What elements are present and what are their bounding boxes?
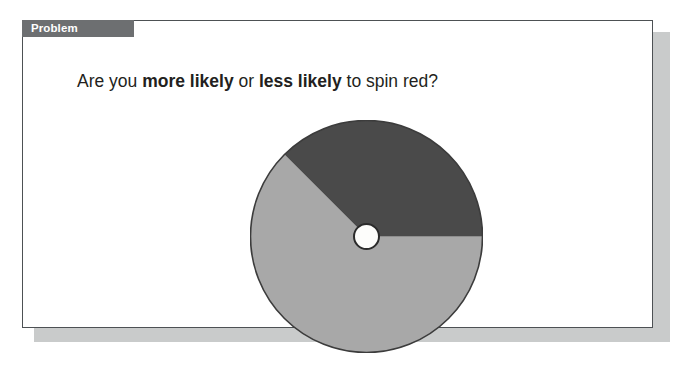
problem-banner: Problem xyxy=(22,20,134,37)
question-text-part-5: to spin red? xyxy=(342,71,438,91)
question-text-part-3: or xyxy=(234,71,259,91)
question-emphasis-less-likely: less likely xyxy=(259,71,342,91)
question-emphasis-more-likely: more likely xyxy=(142,71,233,91)
problem-question: Are you more likely or less likely to sp… xyxy=(77,69,438,93)
page-root: Are you more likely or less likely to sp… xyxy=(0,0,689,380)
spinner-svg xyxy=(250,120,483,353)
spinner-diagram xyxy=(250,120,483,353)
question-text-part-1: Are you xyxy=(77,71,142,91)
problem-panel: Are you more likely or less likely to sp… xyxy=(22,20,653,328)
spinner-hub-icon xyxy=(354,224,379,249)
problem-banner-label: Problem xyxy=(31,21,78,36)
